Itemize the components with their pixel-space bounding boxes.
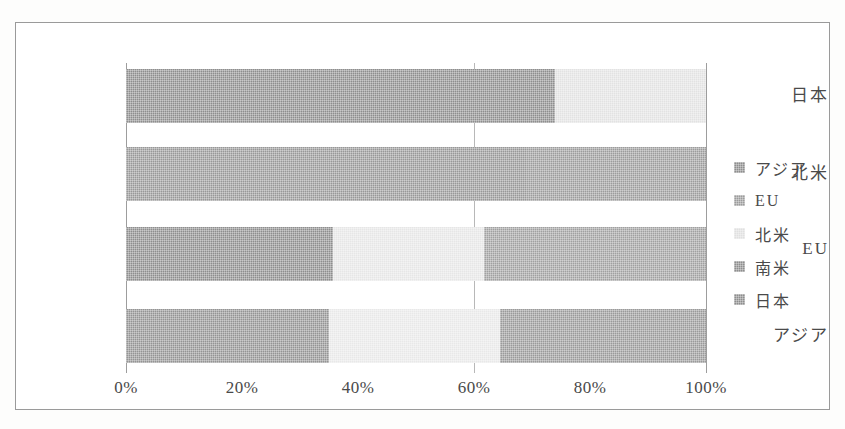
legend-item[interactable]: 南米: [734, 250, 834, 283]
bar-row: [126, 227, 706, 281]
legend-swatch-icon: [734, 261, 745, 272]
bar-row: [126, 309, 706, 363]
x-axis-tick-100: 100%: [666, 378, 746, 398]
legend-label: 日本: [755, 288, 791, 312]
x-axis-tick-40: 40%: [318, 378, 398, 398]
legend-label: EU: [755, 192, 780, 210]
plot-area: [126, 63, 706, 373]
legend-label: アジア: [755, 156, 808, 180]
gridline-100: [706, 63, 707, 373]
legend-item[interactable]: EU: [734, 184, 834, 217]
y-axis-label-0: 日本: [733, 81, 829, 106]
x-axis-tick-20: 20%: [202, 378, 282, 398]
legend-label: 北米: [755, 222, 791, 246]
legend-swatch-icon: [734, 228, 745, 239]
bar-segment: [126, 69, 555, 123]
x-axis-tick-60: 60%: [434, 378, 514, 398]
bar-row: [126, 69, 706, 123]
x-axis-tick-0: 0%: [86, 378, 166, 398]
legend-swatch-icon: [734, 294, 745, 305]
chart-frame: 日本 北米 EU アジア アジアEU北米南米日本 0%20%40%60%80%1…: [15, 22, 830, 410]
legend-item[interactable]: 日本: [734, 283, 834, 316]
bar-segment: [484, 227, 706, 281]
bar-segment: [329, 309, 500, 363]
bar-segment: [126, 227, 333, 281]
bar-segment: [500, 309, 706, 363]
bar-segment: [333, 227, 484, 281]
bar-segment: [555, 69, 706, 123]
bar-segment: [126, 147, 526, 201]
legend-label: 南米: [755, 255, 791, 279]
legend-swatch-icon: [734, 162, 745, 173]
bar-segment: [126, 309, 329, 363]
x-axis-tick-80: 80%: [550, 378, 630, 398]
legend-item[interactable]: 北米: [734, 217, 834, 250]
legend-item[interactable]: アジア: [734, 151, 834, 184]
bar-row: [126, 147, 706, 201]
chart-legend: アジアEU北米南米日本: [734, 151, 834, 316]
chart-figure: 日本 北米 EU アジア アジアEU北米南米日本 0%20%40%60%80%1…: [0, 0, 845, 429]
legend-swatch-icon: [734, 195, 745, 206]
bar-segment: [526, 147, 706, 201]
y-axis-label-3: アジア: [733, 321, 829, 346]
